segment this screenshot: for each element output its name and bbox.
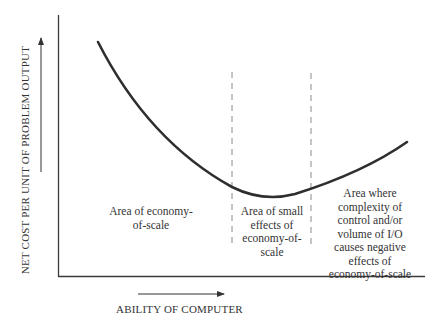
- region-label-negative-effects: Area where complexity of control and/or …: [314, 187, 426, 282]
- region-label-economy-of-scale: Area of economy- of-scale: [96, 205, 206, 232]
- region-label-small-effects: Area of small effects of economy-of- sca…: [235, 205, 309, 259]
- y-axis-label: NET COST PER UNIT OF PROBLEM OUTPUT: [19, 46, 31, 274]
- x-axis-label: ABILITY OF COMPUTER: [116, 303, 243, 315]
- cost-curve: [98, 42, 407, 197]
